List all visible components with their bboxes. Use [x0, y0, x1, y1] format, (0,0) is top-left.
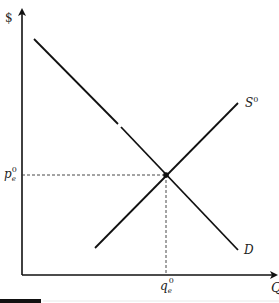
demand-curve [34, 39, 238, 250]
supply-demand-diagram: $ Q S0 D pe0 qe0 [0, 0, 279, 303]
equilibrium-guides [22, 175, 166, 275]
quantity-equilibrium-label: qe0 [160, 276, 174, 295]
equilibrium-point [163, 172, 169, 178]
caption-rule [43, 300, 279, 302]
x-axis-label: Q [271, 280, 279, 295]
supply-label: S0 [245, 95, 258, 110]
caption-bar [0, 299, 41, 303]
y-axis-label: $ [5, 11, 13, 25]
price-equilibrium-label: pe0 [4, 165, 17, 183]
demand-label: D [243, 243, 254, 257]
